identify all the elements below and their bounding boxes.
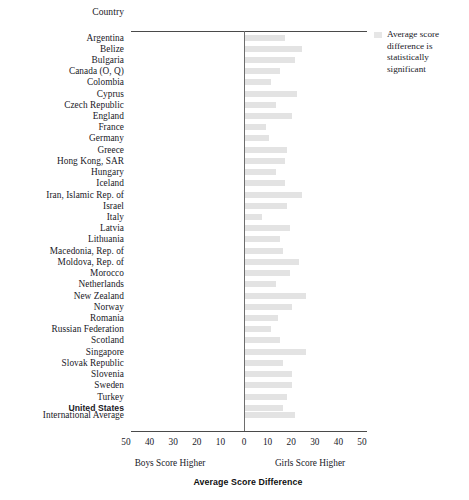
bar xyxy=(245,270,290,276)
bar xyxy=(245,293,306,299)
row-label: Netherlands xyxy=(79,279,124,289)
legend-label: Average score difference is statisticall… xyxy=(387,29,469,75)
x-tick-label: 10 xyxy=(209,437,231,447)
row-label: New Zealand xyxy=(74,291,124,301)
row-label: Turkey xyxy=(97,392,124,402)
bar xyxy=(245,46,302,52)
x-tick-label: 40 xyxy=(139,437,161,447)
bar xyxy=(245,371,292,377)
x-tick-label: 40 xyxy=(327,437,349,447)
bar xyxy=(245,394,287,400)
row-label: Sweden xyxy=(94,380,124,390)
row-label: Israel xyxy=(103,201,124,211)
bar xyxy=(245,158,285,164)
x-tick-label: 50 xyxy=(115,437,137,447)
row-label: Moldova, Rep. of xyxy=(58,257,124,267)
row-label: Romania xyxy=(90,313,124,323)
bar xyxy=(245,169,276,175)
bar xyxy=(245,135,269,141)
bar xyxy=(245,304,292,310)
bar xyxy=(245,259,299,265)
bar xyxy=(245,57,295,63)
row-label: Argentina xyxy=(87,33,124,43)
row-label: Czech Republic xyxy=(64,100,124,110)
bar xyxy=(245,337,280,343)
row-label: Iceland xyxy=(96,178,124,188)
significance-swatch-icon xyxy=(374,32,382,38)
row-label: Scotland xyxy=(91,335,124,345)
bar xyxy=(245,147,287,153)
bar xyxy=(245,102,276,108)
x-tick-label: 50 xyxy=(351,437,373,447)
row-label: Belize xyxy=(100,44,124,54)
x-tick-label: 20 xyxy=(280,437,302,447)
bar xyxy=(245,349,306,355)
bar xyxy=(245,180,285,186)
girls-score-higher-caption: Girls Score Higher xyxy=(250,458,370,469)
row-label: Macedonia, Rep. of xyxy=(50,246,124,256)
bar xyxy=(245,360,283,366)
boys-score-higher-caption: Boys Score Higher xyxy=(110,458,230,469)
row-label: Singapore xyxy=(86,347,124,357)
row-label: Slovenia xyxy=(91,369,124,379)
bar xyxy=(245,35,285,41)
axis-title: Average Score Difference xyxy=(128,477,368,487)
x-tick-label: 30 xyxy=(304,437,326,447)
row-label: Germany xyxy=(89,133,124,143)
row-label: Italy xyxy=(107,212,124,222)
row-label: France xyxy=(98,122,124,132)
row-label: Morocco xyxy=(90,268,124,278)
bar xyxy=(245,79,271,85)
bar xyxy=(245,236,280,242)
bottom-axis-rule xyxy=(131,431,367,432)
row-label: Russian Federation xyxy=(52,324,124,334)
top-rule xyxy=(131,31,367,32)
row-label: Lithuania xyxy=(88,234,124,244)
bar xyxy=(245,91,297,97)
x-tick-label: 20 xyxy=(186,437,208,447)
bar xyxy=(245,326,271,332)
x-tick-label: 10 xyxy=(257,437,279,447)
bar xyxy=(245,225,290,231)
bar xyxy=(245,315,278,321)
country-column-header: Country xyxy=(92,7,124,17)
row-label: Hungary xyxy=(91,167,124,177)
row-label: Cyprus xyxy=(97,89,124,99)
row-label: Hong Kong, SAR xyxy=(57,156,124,166)
bar xyxy=(245,405,283,411)
bar xyxy=(245,382,292,388)
bar xyxy=(245,124,266,130)
row-label: Bulgaria xyxy=(92,55,124,65)
x-tick-label: 30 xyxy=(162,437,184,447)
bar xyxy=(245,203,287,209)
row-label: Norway xyxy=(94,302,124,312)
row-label: Slovak Republic xyxy=(62,358,124,368)
bar xyxy=(245,192,302,198)
row-label: Iran, Islamic Rep. of xyxy=(46,190,124,200)
row-label: Greece xyxy=(97,145,124,155)
row-label: England xyxy=(93,111,124,121)
bar xyxy=(245,412,295,418)
row-label: Canada (O, Q) xyxy=(69,66,124,76)
row-label: Latvia xyxy=(100,223,124,233)
score-difference-chart: Country ArgentinaBelizeBulgariaCanada (O… xyxy=(0,0,469,500)
row-label: Colombia xyxy=(87,77,124,87)
bar xyxy=(245,281,276,287)
plot-area: 504030201001020304050 xyxy=(131,0,367,500)
row-label-international-average: International Average xyxy=(43,410,124,420)
x-tick-label: 0 xyxy=(233,437,255,447)
bar xyxy=(245,113,292,119)
bar xyxy=(245,68,280,74)
bar xyxy=(245,214,262,220)
bar xyxy=(245,248,283,254)
